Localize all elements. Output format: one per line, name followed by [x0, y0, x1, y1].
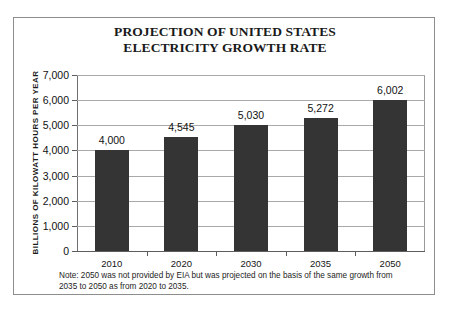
bar-2035: 5,272 — [304, 118, 338, 251]
x-tick-3 — [286, 251, 287, 256]
y-axis-label-5000: 5,000 — [43, 119, 69, 131]
x-axis-label-2035: 2035 — [310, 258, 331, 269]
y-axis-title: BILLIONS OF KILOWATT HOURS PER YEAR — [31, 68, 40, 258]
chart-title: PROJECTION OF UNITED STATES ELECTRICITY … — [14, 24, 436, 55]
y-axis-label-7000: 7,000 — [43, 69, 69, 81]
bar-value-2030: 5,030 — [238, 109, 264, 121]
bar-value-2010: 4,000 — [99, 134, 125, 146]
y-tick-2000 — [72, 201, 77, 202]
plot-area: 7,000 6,000 5,000 4,000 3,000 2,000 1,00… — [77, 75, 425, 251]
chart-title-line-1: PROJECTION OF UNITED STATES — [14, 24, 436, 40]
x-axis-label-2010: 2010 — [101, 258, 122, 269]
x-axis-label-2050: 2050 — [380, 258, 401, 269]
x-tick-1 — [147, 251, 148, 256]
bar-2020: 4,545 — [164, 137, 198, 251]
y-axis-label-2000: 2,000 — [43, 195, 69, 207]
y-axis-label-0: 0 — [63, 245, 69, 257]
bar-2010: 4,000 — [95, 150, 129, 251]
chart-frame: PROJECTION OF UNITED STATES ELECTRICITY … — [13, 17, 435, 295]
chart-title-line-2: ELECTRICITY GROWTH RATE — [14, 40, 436, 56]
y-tick-0 — [72, 251, 77, 252]
y-axis-label-1000: 1,000 — [43, 220, 69, 232]
chart-note: Note: 2050 was not provided by EIA but w… — [59, 270, 414, 292]
x-axis-line — [77, 251, 425, 252]
x-axis-label-2020: 2020 — [171, 258, 192, 269]
chart-note-line-1: Note: 2050 was not provided by EIA but w… — [59, 270, 414, 281]
y-axis-label-4000: 4,000 — [43, 144, 69, 156]
bar-2050: 6,002 — [373, 100, 407, 251]
y-tick-4000 — [72, 150, 77, 151]
chart-note-line-2: 2035 to 2050 as from 2020 to 2035. — [59, 281, 414, 292]
gridline-7000 — [77, 75, 425, 76]
y-tick-6000 — [72, 100, 77, 101]
y-tick-3000 — [72, 176, 77, 177]
y-tick-5000 — [72, 125, 77, 126]
bar-value-2050: 6,002 — [377, 84, 403, 96]
y-tick-7000 — [72, 75, 77, 76]
bar-2030: 5,030 — [234, 125, 268, 251]
y-axis-label-6000: 6,000 — [43, 94, 69, 106]
x-tick-2 — [216, 251, 217, 256]
bar-value-2020: 4,545 — [168, 121, 194, 133]
x-axis-label-2030: 2030 — [240, 258, 261, 269]
bar-value-2035: 5,272 — [307, 102, 333, 114]
x-tick-4 — [355, 251, 356, 256]
y-axis-label-3000: 3,000 — [43, 170, 69, 182]
y-tick-1000 — [72, 226, 77, 227]
